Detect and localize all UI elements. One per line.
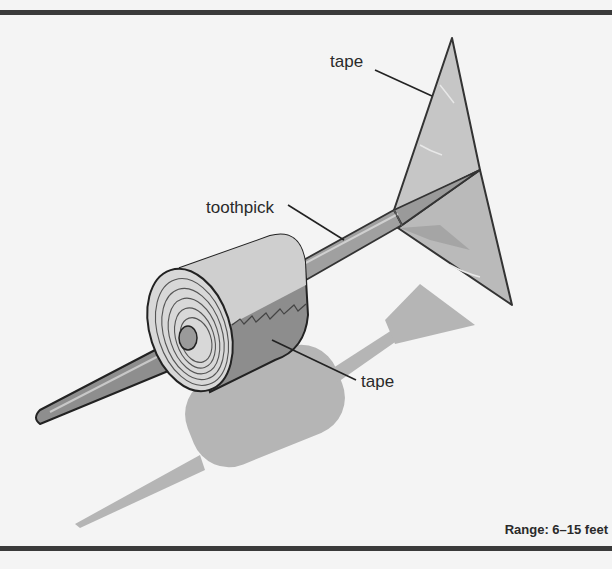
label-roll-tape: tape <box>361 372 394 392</box>
range-caption: Range: 6–15 feet <box>505 522 608 537</box>
dart-illustration <box>0 0 612 569</box>
leader-fin-tape <box>375 70 432 96</box>
bottom-rule <box>0 546 612 551</box>
label-fin-tape: tape <box>330 52 363 72</box>
tape-fin <box>393 38 512 305</box>
leader-toothpick <box>288 205 344 240</box>
label-toothpick: toothpick <box>206 198 274 218</box>
